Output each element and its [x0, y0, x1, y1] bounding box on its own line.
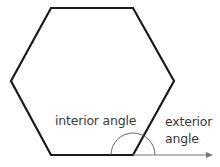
arrow-head-icon	[206, 152, 213, 158]
hexagon-outline	[11, 8, 174, 155]
interior-angle-label: interior angle	[55, 115, 136, 128]
exterior-angle-label-line1: exterior	[165, 116, 212, 129]
exterior-angle-label-line2: angle	[165, 133, 199, 146]
interior-angle-arc	[111, 133, 155, 155]
